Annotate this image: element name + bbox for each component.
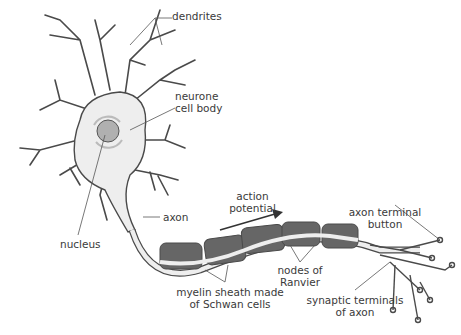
neurone-diagram xyxy=(0,0,461,335)
label-cell-body-line2: cell body xyxy=(175,102,222,114)
label-dendrites: dendrites xyxy=(172,10,222,22)
label-terminal-button-line2: button xyxy=(345,218,425,230)
label-myelin-line2: of Schwan cells xyxy=(175,298,285,310)
label-action-potential-line2: potential xyxy=(225,202,280,214)
label-cell-body-line1: neurone xyxy=(175,90,218,102)
label-nodes-line2: Ranvier xyxy=(270,276,330,288)
label-nodes-line1: nodes of xyxy=(270,264,330,276)
label-synaptic-line1: synaptic terminals xyxy=(305,294,405,306)
label-nucleus: nucleus xyxy=(60,238,101,250)
label-terminal-button-line1: axon terminal xyxy=(345,206,425,218)
label-synaptic-line2: of axon xyxy=(305,306,405,318)
label-axon: axon xyxy=(163,211,188,223)
cell-body xyxy=(74,92,146,232)
label-action-potential-line1: action xyxy=(225,190,280,202)
label-myelin-line1: myelin sheath made xyxy=(175,286,285,298)
